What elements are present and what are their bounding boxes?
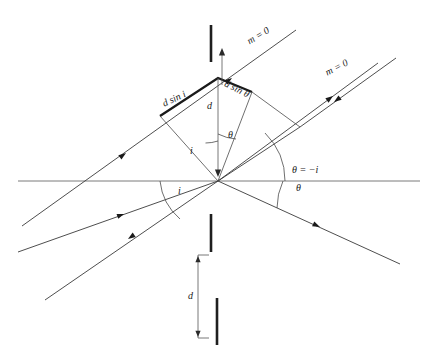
upper-left-ray-arrowhead (118, 151, 127, 160)
label-spacing-d-lower: d (188, 291, 193, 301)
angle-arc-theta-equals-minus-i (265, 133, 285, 181)
incident-ray-extension-lower-left (45, 181, 218, 300)
ray-upper-left-to-upper-right (22, 30, 296, 226)
angle-arc-theta-upper (218, 134, 236, 139)
lower-left-extension-arrowhead (126, 233, 135, 242)
diffracted-ray-lower-right (218, 181, 400, 264)
label-angle-theta-equals-minus-i: θ = −i (292, 165, 318, 175)
label-angle-theta-upper: θ (228, 130, 233, 140)
ray-m0-right-upper-segment (300, 58, 396, 127)
lower-dim-arrow-up (195, 256, 200, 262)
label-angle-theta-lower: θ (296, 183, 301, 193)
label-angle-i-lower: i (178, 186, 181, 196)
incident-ray-lower-arrowhead (117, 212, 125, 219)
lower-dim-arrow-down (195, 331, 200, 337)
label-angle-i-upper: i (190, 146, 193, 156)
diffracted-lower-right-arrowhead (312, 221, 321, 229)
angle-arc-theta-lower (277, 181, 283, 208)
angle-arc-i-lower (160, 181, 180, 219)
label-spacing-d-upper: d (207, 101, 212, 111)
normal-up-arrowhead (219, 48, 225, 56)
diffraction-diagram-svg (0, 0, 434, 361)
figure-container: m = 0 m = 0 d sin i d sin θ d i θ i θ = … (0, 0, 434, 361)
figure-caption (14, 347, 434, 361)
construction-line-to-incident-wavefront (160, 116, 218, 181)
construction-extension-right (252, 92, 300, 127)
angle-arc-i-upper (206, 141, 219, 143)
